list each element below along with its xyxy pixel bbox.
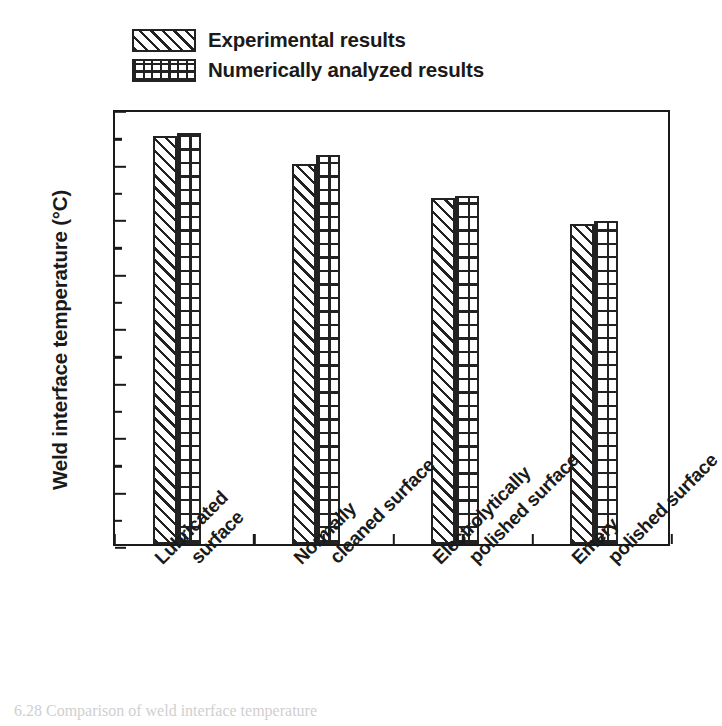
y-axis-tick-major [115, 438, 126, 440]
y-axis-tick-minor [115, 520, 122, 522]
bar-numerical [455, 196, 479, 544]
y-axis-tick-minor [115, 138, 122, 140]
y-axis-tick-major [115, 165, 126, 167]
x-axis-tick [532, 534, 534, 544]
y-axis-tick-major [115, 111, 126, 113]
legend-swatch-cross-hatch-icon [132, 59, 196, 82]
legend-item-experimental: Experimental results [132, 28, 484, 52]
y-axis-tick-major [115, 383, 126, 385]
y-axis-tick-major [115, 492, 126, 494]
y-axis-tick-minor [115, 193, 122, 195]
figure-caption: 6.28 Comparison of weld interface temper… [14, 702, 694, 720]
x-axis-tick [392, 534, 394, 544]
bar-numerical [594, 221, 618, 544]
bar-numerical [316, 155, 340, 544]
x-axis-tick [671, 534, 673, 544]
legend-swatch-diagonal-hatch-icon [132, 29, 196, 52]
bar-numerical [177, 133, 201, 544]
legend-label-experimental: Experimental results [208, 28, 406, 52]
y-axis-tick-major [115, 547, 126, 549]
y-axis-tick-minor [115, 302, 122, 304]
bar-experimental [292, 164, 316, 544]
legend-label-numerical: Numerically analyzed results [208, 58, 484, 82]
y-axis-tick-major [115, 220, 126, 222]
legend-item-numerical: Numerically analyzed results [132, 58, 484, 82]
y-axis-title: Weld interface temperature (°C) [48, 120, 72, 560]
bar-experimental [153, 136, 177, 544]
y-axis-tick-minor [115, 411, 122, 413]
y-axis-tick-minor [115, 465, 122, 467]
bar-experimental [431, 198, 455, 544]
y-axis-tick-major [115, 329, 126, 331]
x-axis-tick [114, 534, 116, 544]
bar-experimental [570, 224, 594, 544]
y-axis-tick-minor [115, 247, 122, 249]
y-axis-tick-major [115, 274, 126, 276]
x-axis-tick [253, 534, 255, 544]
y-axis-tick-minor [115, 356, 122, 358]
chart-legend: Experimental results Numerically analyze… [132, 28, 484, 82]
